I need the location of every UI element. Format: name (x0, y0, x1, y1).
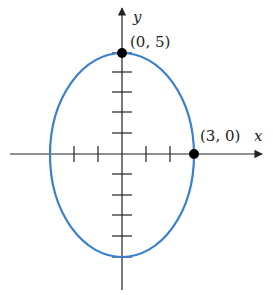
ellipse-graph: (0, 5) (3, 0) y x (0, 0, 273, 295)
y-axis-label: y (132, 8, 142, 26)
point-top-vertex (117, 48, 127, 58)
point-label-right: (3, 0) (200, 127, 240, 145)
point-right-vertex (189, 149, 199, 159)
point-label-top: (0, 5) (130, 33, 170, 51)
x-axis-label: x (254, 127, 263, 145)
